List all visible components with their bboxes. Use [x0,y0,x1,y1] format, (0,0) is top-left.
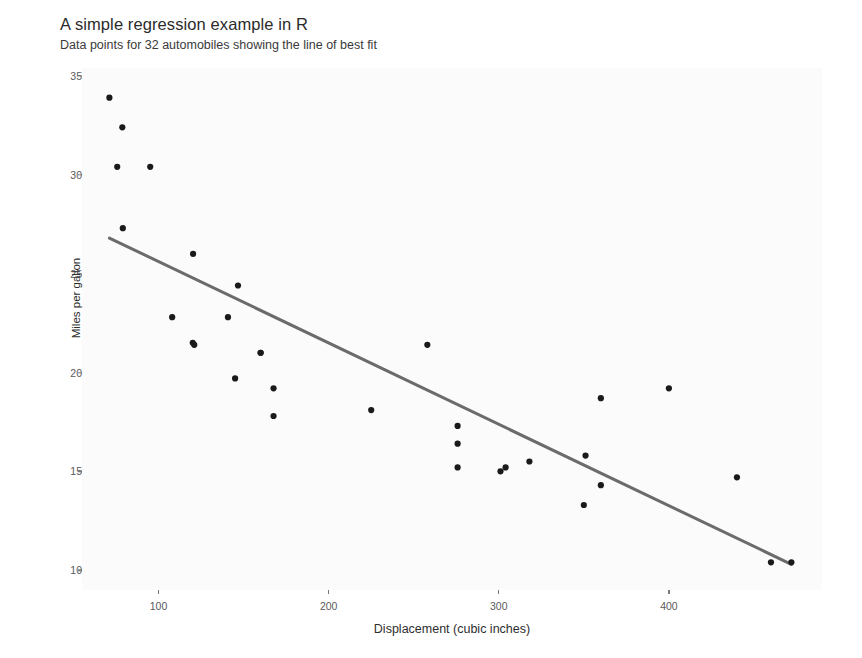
y-tick-mark [78,570,82,571]
y-tick-label: 10 [48,564,82,576]
data-point [119,124,125,130]
data-point [598,395,604,401]
y-tick-label: 35 [48,70,82,82]
x-tick-mark [158,590,159,594]
y-tick-label: 15 [48,465,82,477]
data-point [114,164,120,170]
data-point [368,407,374,413]
y-tick-label: 30 [48,169,82,181]
data-point [270,385,276,391]
x-tick-label: 300 [479,600,519,612]
y-axis-title: Miles per gallon [70,208,82,388]
data-point [734,474,740,480]
data-point [768,559,774,565]
data-point [190,251,196,257]
data-point [455,464,461,470]
data-point [258,350,264,356]
data-point [666,385,672,391]
data-point [232,375,238,381]
title-block: A simple regression example in R Data po… [60,14,760,53]
plot-canvas [82,68,822,590]
y-tick-mark [78,471,82,472]
data-point [455,423,461,429]
data-point [270,413,276,419]
data-point [235,282,241,288]
chart-subtitle: Data points for 32 automobiles showing t… [60,37,760,53]
data-point [106,95,112,101]
x-tick-mark [328,590,329,594]
x-tick-label: 400 [649,600,689,612]
data-point [191,342,197,348]
chart-screenshot: A simple regression example in R Data po… [0,0,862,658]
y-tick-mark [78,174,82,175]
data-point [526,458,532,464]
x-tick-label: 200 [309,600,349,612]
x-axis-ticks: 100200300400 [82,590,822,614]
fit-line [109,238,791,564]
x-tick-label: 100 [139,600,179,612]
data-point [120,225,126,231]
scatter-points [106,95,794,566]
data-point [169,314,175,320]
regression-line [109,238,791,564]
data-point [581,502,587,508]
data-point [225,314,231,320]
data-point [497,468,503,474]
y-tick-mark [78,75,82,76]
data-point [455,441,461,447]
x-axis-title: Displacement (cubic inches) [82,622,822,636]
page-title: A simple regression example in R [60,14,760,34]
data-point [582,452,588,458]
plot-panel [82,68,822,590]
data-point [598,482,604,488]
data-point [788,559,794,565]
data-point [147,164,153,170]
x-tick-mark [498,590,499,594]
data-point [424,342,430,348]
x-tick-mark [668,590,669,594]
data-point [502,464,508,470]
